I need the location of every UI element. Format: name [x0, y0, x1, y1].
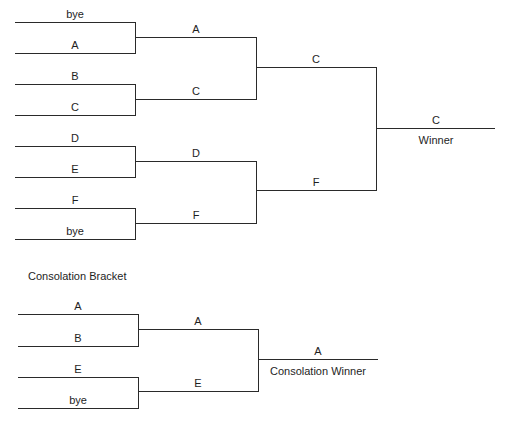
cons-winner-caption: Consolation Winner — [270, 365, 366, 377]
main-r3-slot-2-line — [256, 190, 376, 191]
main-r1-slot-7-line — [15, 208, 135, 209]
main-winner-caption: Winner — [419, 134, 454, 146]
main-r1-slot-7-label: F — [72, 194, 79, 206]
main-r3-connector — [376, 67, 377, 191]
main-r1-connector-4 — [135, 208, 136, 240]
cons-r1-slot-3-label: E — [74, 363, 81, 375]
main-r1-connector-3 — [135, 146, 136, 178]
main-r1-slot-1-line — [15, 22, 135, 23]
main-r1-slot-4-label: C — [71, 101, 79, 113]
main-final-label: C — [432, 114, 440, 126]
main-r2-slot-3-label: D — [192, 147, 200, 159]
main-r2-slot-2-line — [135, 99, 256, 100]
main-r1-slot-3-label: B — [71, 70, 78, 82]
cons-r2-slot-2-line — [138, 391, 258, 392]
main-r1-connector-1 — [135, 22, 136, 54]
main-r2-slot-4-label: F — [193, 209, 200, 221]
cons-r2-connector — [258, 329, 259, 392]
cons-final-label: A — [314, 345, 321, 357]
main-r1-slot-8-line — [15, 239, 135, 240]
main-r1-slot-2-label: A — [71, 39, 78, 51]
cons-r2-slot-2-label: E — [194, 377, 201, 389]
cons-r1-slot-3-line — [18, 377, 138, 378]
cons-r1-slot-4-line — [18, 408, 138, 409]
cons-r2-slot-1-label: A — [194, 315, 201, 327]
main-r3-slot-2-label: F — [313, 176, 320, 188]
main-r2-slot-2-label: C — [192, 85, 200, 97]
cons-r1-slot-1-line — [18, 314, 138, 315]
main-r2-slot-3-line — [135, 161, 256, 162]
main-r1-slot-8-label: bye — [66, 225, 84, 237]
consolation-bracket-title: Consolation Bracket — [28, 270, 126, 282]
cons-r1-slot-1-label: A — [74, 300, 81, 312]
main-r1-slot-3-line — [15, 84, 135, 85]
main-r1-slot-6-label: E — [71, 163, 78, 175]
main-r1-slot-2-line — [15, 53, 135, 54]
main-r1-slot-4-line — [15, 115, 135, 116]
main-r1-slot-5-line — [15, 146, 135, 147]
main-r2-connector-1 — [256, 37, 257, 100]
main-r2-slot-4-line — [135, 223, 256, 224]
main-r1-connector-2 — [135, 84, 136, 116]
main-r3-slot-1-line — [256, 67, 376, 68]
cons-r1-slot-4-label: bye — [69, 394, 87, 406]
main-r2-slot-1-line — [135, 37, 256, 38]
main-final-line — [376, 128, 495, 129]
main-r2-connector-2 — [256, 161, 257, 224]
main-r1-slot-6-line — [15, 177, 135, 178]
main-r1-slot-5-label: D — [71, 132, 79, 144]
cons-r1-slot-2-line — [18, 346, 138, 347]
main-r3-slot-1-label: C — [312, 53, 320, 65]
cons-r2-slot-1-line — [138, 329, 258, 330]
cons-r1-connector-2 — [138, 377, 139, 409]
cons-r1-slot-2-label: B — [74, 332, 81, 344]
cons-final-line — [258, 359, 378, 360]
cons-r1-connector-1 — [138, 314, 139, 347]
main-r2-slot-1-label: A — [192, 23, 199, 35]
main-r1-slot-1-label: bye — [66, 8, 84, 20]
tournament-bracket-diagram: bye A B C D E F bye A C D F C F C Winner — [0, 0, 511, 422]
